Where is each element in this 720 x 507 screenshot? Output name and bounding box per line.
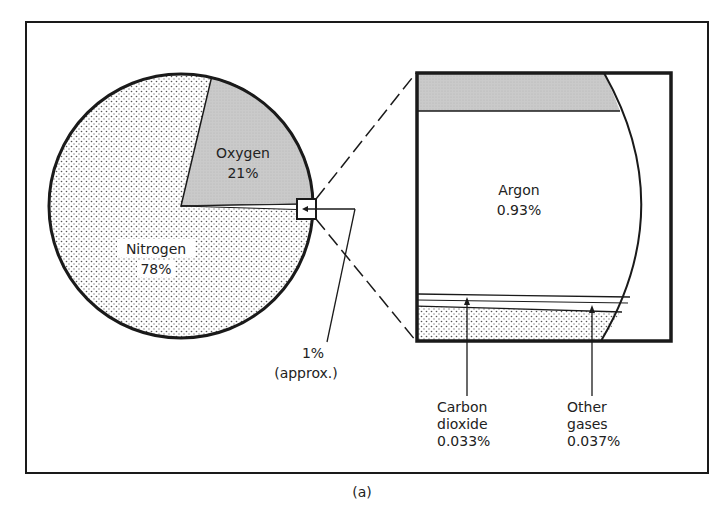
zoom-oxygen-band [417,73,620,111]
svg-text:dioxide: dioxide [437,416,488,432]
label-carbon-dioxide: Carbon dioxide 0.033% [437,399,490,449]
pie-chart [49,74,313,338]
label-oxygen-name: Oxygen [216,145,270,161]
label-argon-value: 0.93% [497,202,541,218]
label-other-gases: Other gases 0.037% [567,399,620,449]
svg-text:0.033%: 0.033% [437,433,490,449]
air-composition-diagram: Oxygen 21% Nitrogen 78% 1% (approx.) [0,0,720,507]
zoom-panel: Argon 0.93% [417,73,671,341]
callout-approx: (approx.) [274,365,338,381]
label-nitrogen-value: 78% [140,261,171,277]
label-oxygen-value: 21% [227,165,258,181]
svg-text:gases: gases [567,416,608,432]
callout-percent: 1% [302,345,324,361]
zoom-connector-top [316,73,416,199]
label-nitrogen-name: Nitrogen [126,241,186,257]
figure-caption: (a) [352,484,372,500]
svg-text:Carbon: Carbon [437,399,487,415]
label-argon-name: Argon [498,182,539,198]
svg-text:0.037%: 0.037% [567,433,620,449]
svg-text:Other: Other [567,399,607,415]
